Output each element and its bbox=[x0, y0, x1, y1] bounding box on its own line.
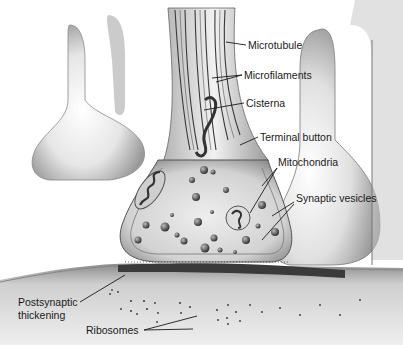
label-synaptic-vesicles: Synaptic vesicles bbox=[296, 192, 377, 204]
label-ribosomes: Ribosomes bbox=[86, 324, 139, 336]
label-terminal-button: Terminal button bbox=[260, 131, 332, 143]
label-mitochondria: Mitochondria bbox=[278, 156, 338, 168]
mitochondrion-round bbox=[226, 206, 250, 230]
label-microtubule: Microtubule bbox=[248, 39, 302, 51]
synapse-diagram: Microtubule Microfilaments Cisterna Term… bbox=[0, 0, 403, 345]
label-microfilaments: Microfilaments bbox=[244, 69, 312, 81]
axon bbox=[160, 8, 268, 170]
label-postsynaptic-thickening-line2: thickening bbox=[18, 309, 65, 321]
left-neighbor-terminal bbox=[32, 15, 144, 180]
label-cisterna: Cisterna bbox=[246, 97, 285, 109]
terminal-button bbox=[120, 160, 292, 262]
label-postsynaptic-thickening-line1: Postsynaptic bbox=[18, 296, 78, 308]
synapse-illustration bbox=[0, 0, 403, 345]
